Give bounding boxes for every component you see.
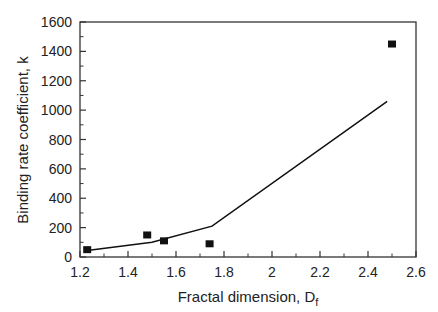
y-tick-label: 1400: [41, 43, 72, 59]
fit-line-path: [87, 101, 387, 250]
x-tick-label: 2: [268, 264, 276, 280]
data-point-marker: [160, 237, 168, 244]
y-tick-label: 0: [64, 249, 72, 265]
y-tick-label: 200: [49, 220, 73, 236]
y-axis-ticks: 02004006008001000120014001600: [41, 14, 86, 265]
x-tick-label: 1.4: [118, 264, 138, 280]
x-tick-label: 2.2: [310, 264, 330, 280]
y-tick-label: 1600: [41, 14, 72, 30]
plot-frame: [80, 22, 416, 257]
x-tick-label: 1.6: [166, 264, 186, 280]
x-axis-ticks: 1.21.41.61.822.22.42.6: [70, 251, 426, 280]
data-point-marker: [83, 246, 91, 253]
chart: 02004006008001000120014001600 1.21.41.61…: [0, 0, 438, 312]
data-points: [83, 41, 396, 254]
y-tick-label: 1000: [41, 102, 72, 118]
y-axis-title: Binding rate coefficient, k: [14, 56, 31, 224]
y-tick-label: 1200: [41, 73, 72, 89]
x-axis-title: Fractal dimension, Df: [178, 288, 320, 308]
y-tick-label: 800: [49, 132, 73, 148]
x-tick-label: 1.2: [70, 264, 90, 280]
x-tick-label: 1.8: [214, 264, 234, 280]
fit-line: [87, 101, 387, 250]
x-tick-label: 2.6: [406, 264, 426, 280]
y-tick-label: 600: [49, 161, 73, 177]
data-point-marker: [143, 231, 151, 238]
y-tick-label: 400: [49, 190, 73, 206]
data-point-marker: [206, 240, 214, 247]
plot-border: [80, 22, 416, 257]
data-point-marker: [388, 41, 396, 48]
x-tick-label: 2.4: [358, 264, 378, 280]
